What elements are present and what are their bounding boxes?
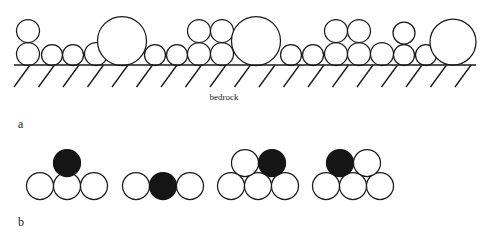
sediment-grain [98,17,147,66]
sediment-grain [281,45,302,66]
hatch-tick [357,65,373,87]
hatch-tick [382,65,398,87]
sediment-grain [63,45,84,66]
config-3-grain-upper-right [218,150,299,200]
hatch-tick [235,65,251,87]
bed-grain-open [177,173,204,200]
sediment-grain [188,20,211,43]
panel-b: b [18,150,394,230]
panel-a-grain-layer [17,17,477,66]
hatch-tick [308,65,324,87]
sediment-grain [17,43,40,66]
sediment-grain [348,43,371,66]
hatch-tick [88,65,104,87]
hatch-tick [284,65,300,87]
hatch-tick [406,65,422,87]
sediment-grain [430,19,476,65]
target-grain-filled [259,150,286,177]
sediment-grain [393,22,415,44]
bed-grain-open [313,173,340,200]
hatch-tick [455,65,471,87]
config-4-grain-upper-left [313,150,394,200]
sediment-grain [325,43,348,66]
sediment-grain [232,17,281,66]
sediment-grain [211,20,234,43]
figure-container: bedrock a b [0,0,498,240]
sediment-grain [188,43,211,66]
sediment-grain [394,45,415,66]
bed-grain-open [27,173,54,200]
hatch-tick [186,65,202,87]
target-grain-filled [327,150,354,177]
bed-grain-open [232,150,259,177]
bed-grain-open [123,173,150,200]
target-grain-filled [150,173,177,200]
bedrock-hatching [14,65,471,87]
hatch-tick [14,65,30,87]
sediment-grain [211,43,234,66]
target-grain-filled [54,150,81,177]
hatch-tick [63,65,79,87]
sediment-grain [42,45,63,66]
sediment-grain [145,45,166,66]
bed-grain-open [354,150,381,177]
panel-a: bedrock a [14,17,476,132]
panel-b-configuration-layer [27,150,394,200]
sediment-grain [167,45,188,66]
hatch-tick [39,65,55,87]
sediment-grain [371,43,394,66]
sediment-grain [325,20,348,43]
sediment-grain [17,20,40,43]
hatch-tick [210,65,226,87]
config-1-grain-on-top-of-three [27,150,108,200]
hatch-tick [112,65,128,87]
config-2-grain-in-row [123,173,204,200]
hatch-tick [431,65,447,87]
bedrock-label: bedrock [210,92,239,102]
bed-grain-open [81,173,108,200]
bed-grain-open [218,173,245,200]
panel-a-label: a [18,117,24,131]
sediment-grain-diagram: bedrock a b [0,0,498,240]
hatch-tick [259,65,275,87]
hatch-tick [161,65,177,87]
sediment-grain [303,45,324,66]
hatch-tick [137,65,153,87]
panel-b-label: b [18,215,24,229]
hatch-tick [333,65,349,87]
sediment-grain [348,20,371,43]
